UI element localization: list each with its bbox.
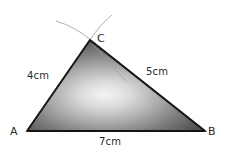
diagram-canvas: A B C 4cm 5cm 7cm <box>0 0 226 155</box>
construction-arc-left <box>56 21 92 41</box>
vertex-label-b: B <box>208 126 216 137</box>
vertex-label-a: A <box>10 126 18 137</box>
side-length-label-bc: 5cm <box>146 67 168 77</box>
side-length-label-ac: 4cm <box>27 71 49 81</box>
vertex-label-c: C <box>97 33 105 44</box>
side-length-label-ab: 7cm <box>99 137 121 147</box>
triangle-abc <box>27 40 205 131</box>
